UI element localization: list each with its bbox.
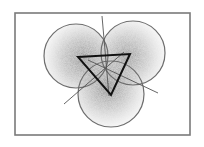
circle-shading-group (44, 21, 165, 127)
venn-triangle-diagram (0, 0, 204, 147)
